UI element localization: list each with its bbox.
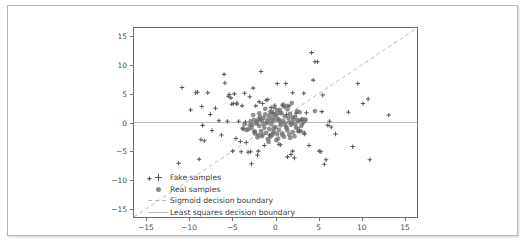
x-tick-mark	[362, 218, 363, 221]
y-tick-label: 5	[103, 89, 127, 98]
y-tick-label: 0	[103, 118, 127, 127]
fake-sample-point	[269, 105, 273, 109]
fake-sample-point	[320, 109, 324, 113]
fake-sample-point	[234, 136, 238, 140]
fake-sample-point	[387, 113, 391, 117]
fake-sample-point	[208, 112, 212, 116]
real-sample-point	[277, 118, 282, 123]
legend-label: Least squares decision boundary	[170, 207, 295, 219]
y-tick-label: 10	[103, 60, 127, 69]
fake-sample-point	[320, 93, 324, 97]
fake-sample-point	[346, 110, 350, 114]
real-sample-point	[280, 133, 285, 138]
real-sample-point	[254, 121, 259, 126]
x-tick-mark	[405, 218, 406, 221]
x-tick-label: 0	[273, 223, 278, 232]
fake-sample-point	[219, 133, 223, 137]
fake-sample-point	[350, 144, 354, 148]
fake-sample-point	[242, 91, 246, 95]
real-sample-point	[261, 122, 266, 127]
real-sample-point	[264, 130, 269, 135]
real-sample-point	[281, 102, 286, 107]
fake-sample-point	[254, 104, 258, 108]
fake-sample-point	[309, 50, 313, 54]
x-tick-label: −5	[227, 223, 238, 232]
fake-sample-point	[256, 149, 260, 153]
y-tick-mark	[130, 36, 133, 37]
real-sample-point	[263, 112, 268, 117]
fake-sample-point	[322, 162, 326, 166]
legend-entry[interactable]: Sigmoid decision boundary	[146, 195, 311, 207]
x-tick-mark	[276, 218, 277, 221]
fake-sample-point	[290, 91, 294, 95]
fake-sample-point	[304, 111, 308, 115]
fake-sample-point	[324, 158, 328, 162]
y-tick-label: −15	[103, 205, 127, 214]
real-sample-point	[288, 136, 293, 141]
legend-entry[interactable]: Fake samples	[146, 172, 311, 184]
fake-sample-point	[180, 85, 184, 89]
x-tick-label: 15	[400, 223, 410, 232]
fake-sample-point	[262, 143, 266, 147]
y-tick-mark	[130, 180, 133, 181]
real-sample-point	[251, 113, 256, 118]
y-tick-mark	[130, 123, 133, 124]
fake-sample-point	[259, 69, 263, 73]
y-tick-label: −5	[103, 147, 127, 156]
real-sample-point	[258, 117, 263, 122]
real-sample-point	[293, 122, 298, 127]
real-sample-point	[266, 140, 271, 145]
real-sample-point	[263, 106, 268, 111]
real-sample-point	[267, 127, 272, 132]
real-sample-point	[269, 118, 274, 123]
fake-sample-point	[292, 156, 296, 160]
fake-sample-point	[200, 104, 204, 108]
fake-sample-point	[284, 81, 288, 85]
x-tick-label: 5	[316, 223, 321, 232]
x-tick-label: −15	[138, 223, 154, 232]
fake-sample-point	[248, 95, 252, 99]
y-tick-mark	[130, 65, 133, 66]
fake-sample-point	[366, 97, 370, 101]
chart-legend: Fake samplesReal samplesSigmoid decision…	[146, 172, 311, 218]
solid-line-icon	[146, 207, 170, 219]
x-tick-mark	[232, 218, 233, 221]
real-sample-point	[257, 111, 262, 116]
fake-sample-point	[248, 150, 252, 154]
legend-label: Sigmoid decision boundary	[170, 195, 273, 207]
real-sample-point	[273, 112, 278, 117]
real-sample-point	[292, 134, 297, 139]
real-sample-point	[283, 121, 288, 126]
legend-entry[interactable]: Real samples	[146, 184, 311, 196]
real-sample-point	[277, 128, 282, 133]
real-sample-point	[284, 126, 289, 131]
fake-sample-point	[368, 158, 372, 162]
y-tick-label: −10	[103, 176, 127, 185]
circle-marker-icon	[146, 184, 170, 196]
plus-marker-icon	[146, 172, 170, 184]
x-tick-label: 10	[357, 223, 367, 232]
fake-sample-point	[302, 91, 306, 95]
legend-entry[interactable]: Least squares decision boundary	[146, 207, 311, 219]
fake-sample-point	[251, 86, 255, 90]
x-tick-mark	[146, 218, 147, 221]
real-sample-point	[274, 138, 279, 143]
y-tick-mark	[130, 151, 133, 152]
fake-sample-point	[197, 157, 201, 161]
fake-sample-point	[240, 104, 244, 108]
fake-sample-point	[249, 162, 253, 166]
y-tick-mark	[130, 94, 133, 95]
x-tick-mark	[319, 218, 320, 221]
real-sample-point	[242, 122, 247, 127]
real-sample-point	[289, 101, 294, 106]
fake-sample-point	[315, 60, 319, 64]
legend-label: Fake samples	[170, 172, 221, 184]
real-sample-point	[290, 115, 295, 120]
fake-sample-point	[244, 140, 248, 144]
y-tick-label: 15	[103, 31, 127, 40]
fake-sample-point	[222, 72, 226, 76]
legend-label: Real samples	[170, 184, 220, 196]
figure-frame: 151050−5−10−15 −15−10−5051015 Fake sampl…	[7, 5, 518, 236]
real-sample-point	[256, 133, 261, 138]
fake-sample-point	[361, 101, 365, 105]
